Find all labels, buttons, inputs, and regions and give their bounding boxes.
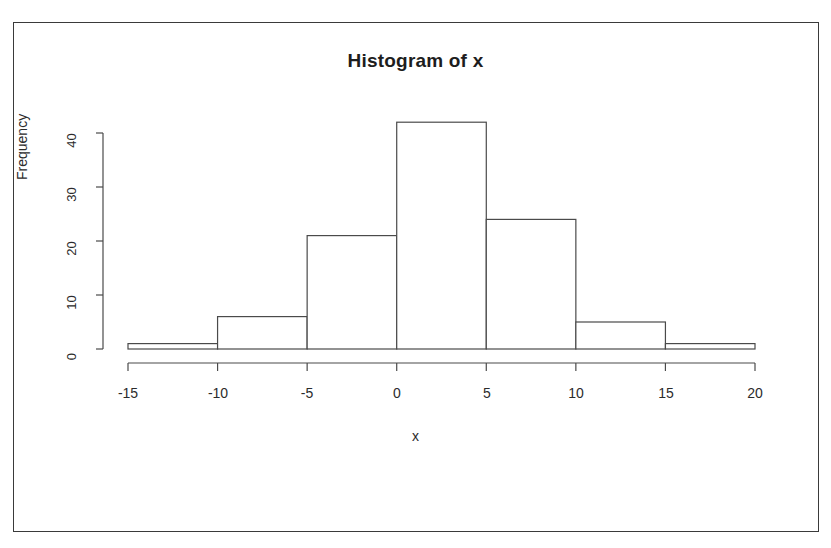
histogram-bar <box>665 344 755 349</box>
histogram-bar <box>486 219 576 349</box>
y-axis <box>96 133 103 349</box>
histogram-bar <box>397 122 487 349</box>
screenshot-canvas: Histogram of x Frequency x 0 10 20 30 40… <box>0 0 831 548</box>
histogram-bar <box>128 344 218 349</box>
histogram-bar <box>307 236 397 349</box>
histogram-bar <box>576 322 666 349</box>
histogram-plot: Histogram of x Frequency x 0 10 20 30 40… <box>0 0 831 548</box>
chart-canvas <box>0 0 831 548</box>
x-axis <box>128 363 755 371</box>
histogram-bar <box>218 317 308 349</box>
histogram-bars <box>128 122 755 349</box>
